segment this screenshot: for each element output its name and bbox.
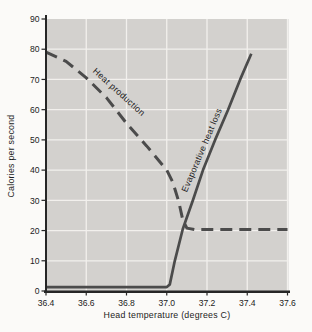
x-axis-title: Head temperature (degrees C): [46, 310, 288, 320]
x-tick-label: 37.0: [158, 298, 175, 308]
x-tick-label: 37.4: [239, 298, 256, 308]
y-tick-label: 70: [30, 75, 40, 85]
y-tick-label: 30: [30, 196, 40, 206]
y-axis-title: Calories per second: [6, 111, 16, 201]
y-tick-label: 80: [30, 44, 40, 54]
y-tick-label: 20: [30, 226, 40, 236]
y-tick-label: 50: [30, 135, 40, 145]
figure-heat-balance-chart: 010203040506070809036.436.636.837.037.23…: [0, 0, 312, 332]
y-tick-label: 0: [35, 286, 40, 296]
y-tick-label: 40: [30, 165, 40, 175]
y-tick-label: 90: [30, 14, 40, 24]
x-tick-label: 37.2: [199, 298, 216, 308]
x-tick-label: 36.4: [38, 298, 55, 308]
y-tick-label: 10: [30, 256, 40, 266]
chart-canvas: 010203040506070809036.436.636.837.037.23…: [0, 0, 312, 332]
y-tick-label: 60: [30, 105, 40, 115]
x-tick-label: 36.6: [78, 298, 95, 308]
x-tick-label: 37.6: [279, 298, 296, 308]
x-tick-label: 36.8: [118, 298, 135, 308]
